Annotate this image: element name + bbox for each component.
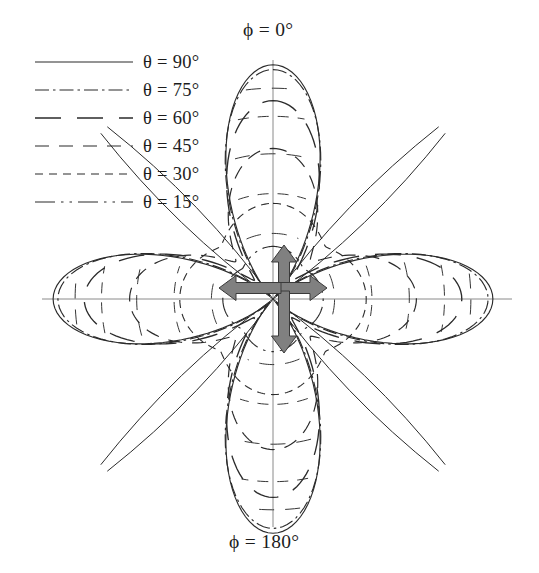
interior-arc-lobe-0-r1 — [238, 194, 306, 200]
interior-arc-lobe-180-r1 — [240, 398, 308, 404]
legend-line-sample-theta-75 — [34, 83, 134, 97]
legend-item-theta-45: θ = 45° — [34, 132, 214, 160]
interior-arc-lobe-180-r0 — [248, 359, 300, 365]
null-ray-45 — [273, 127, 439, 299]
null-ray-225 — [107, 299, 273, 471]
legend-label-theta-75: θ = 75° — [143, 80, 200, 101]
legend-item-theta-60: θ = 60° — [34, 104, 214, 132]
null-ray-135 — [273, 299, 439, 471]
legend-item-theta-75: θ = 75° — [34, 76, 214, 104]
legend-line-sample-theta-60 — [34, 111, 134, 125]
legend-line-sample-theta-30 — [34, 167, 134, 181]
interior-arc-lobe-270-r3 — [102, 266, 105, 333]
legend-label-theta-90: θ = 90° — [143, 52, 200, 73]
axis-label-phi-0: ϕ = 0° — [243, 19, 293, 41]
legend: θ = 90° θ = 75° θ = 60° θ = 45° θ = 30° — [34, 48, 214, 216]
legend-line-sample-theta-90 — [34, 55, 134, 69]
legend-label-theta-15: θ = 15° — [143, 192, 200, 213]
interior-arc-lobe-0-r4 — [246, 88, 296, 90]
legend-item-theta-15: θ = 15° — [34, 188, 214, 216]
interior-arc-lobe-90-r3 — [441, 265, 444, 332]
interior-arc-lobe-0-r0 — [247, 233, 299, 239]
axis-label-phi-180: ϕ = 180° — [229, 531, 299, 553]
interior-arc-lobe-270-r0 — [211, 275, 216, 324]
interior-arc-lobe-90-r0 — [329, 274, 334, 323]
interior-arc-lobe-0-r3 — [238, 116, 305, 119]
interior-arc-lobe-270-r4 — [75, 278, 77, 325]
radiation-pattern-figure: θ = 90° θ = 75° θ = 60° θ = 45° θ = 30° — [0, 0, 539, 573]
interior-arc-lobe-180-r3 — [242, 478, 309, 481]
null-ray-225 — [101, 299, 273, 465]
legend-label-theta-60: θ = 60° — [143, 108, 200, 129]
legend-line-sample-theta-15 — [34, 195, 134, 209]
interior-arc-lobe-180-r4 — [251, 508, 301, 510]
legend-label-theta-30: θ = 30° — [143, 164, 200, 185]
legend-label-theta-45: θ = 45° — [143, 136, 200, 157]
legend-line-sample-theta-45 — [34, 139, 134, 153]
interior-arc-lobe-90-r4 — [469, 274, 471, 321]
legend-item-theta-30: θ = 30° — [34, 160, 214, 188]
legend-item-theta-90: θ = 90° — [34, 48, 214, 76]
